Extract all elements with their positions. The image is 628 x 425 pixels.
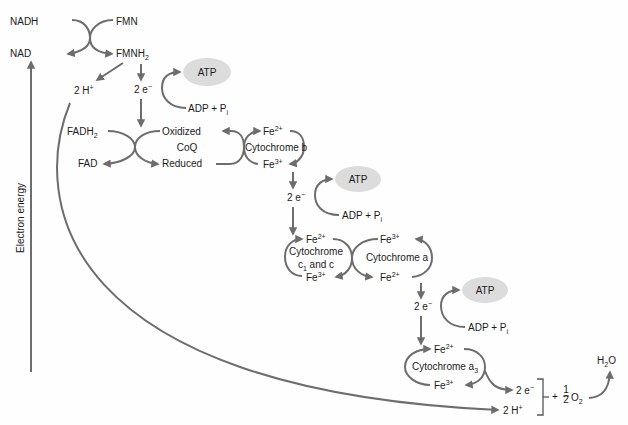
cyt-c-name-line1: Cytochrome — [289, 246, 343, 257]
diagram-canvas: Electron energy NADH NAD FMN FMNH2 2 H+ … — [0, 0, 628, 425]
cyt-a3-to-electrons-arrow — [485, 371, 512, 390]
cyt-a-name-label: Cytochrome a — [366, 252, 429, 263]
oxygen-reduction: 2 e− 2 H+ + 1 2 O2 H2O — [503, 355, 616, 416]
atp-label-1: ATP — [198, 67, 217, 78]
adp-label-1: ADP + Pi — [188, 103, 228, 116]
atp-label-3: ATP — [476, 285, 495, 296]
cyt-a3-fe2-label: Fe2+ — [434, 343, 454, 355]
fmnh2-label: FMNH2 — [116, 48, 149, 61]
cytochrome-a3: Fe2+ Cytochrome a3 Fe3+ — [405, 343, 512, 391]
coq-reduced-label: Reduced — [162, 158, 202, 169]
nad-label: NAD — [10, 48, 31, 59]
atp-synthesis-3: ATP ADP + Pi — [441, 277, 508, 335]
cytochrome-b: Fe2+ Cytochrome b Fe3+ — [216, 125, 308, 170]
oxygen-label: O2 — [571, 392, 583, 405]
fadh2-label: FADH2 — [67, 126, 98, 139]
cyt-a-fe2-label: Fe2+ — [380, 271, 400, 283]
fmn-label: FMN — [116, 16, 138, 27]
coq-oxidized-to-reduced-arrow — [135, 131, 160, 164]
cyt-c-fe2-label: Fe2+ — [306, 233, 326, 245]
coq-name-label: CoQ — [177, 142, 198, 153]
protons-label-final: 2 H+ — [503, 404, 523, 416]
cyt-a3-name-label: Cytochrome a3 — [412, 361, 478, 374]
nadh-to-nad-arrow — [68, 20, 90, 54]
cytochrome-c1-and-c: Fe2+ Cytochrome c1 and c Fe3+ — [285, 233, 352, 283]
cyt-b-name-label: Cytochrome b — [245, 142, 308, 153]
water-label: H2O — [597, 355, 616, 368]
adp-to-atp-arrow-3 — [441, 290, 465, 327]
cyt-b-fe2-label: Fe2+ — [263, 125, 283, 137]
cytochrome-a: Fe3+ Cytochrome a Fe2+ — [352, 233, 432, 283]
fmn-to-fmnh2-arrow — [90, 20, 113, 54]
nadh-fmn-exchange: NADH NAD FMN FMNH2 — [10, 16, 149, 61]
reactant-bracket — [537, 379, 543, 415]
cyt-c-fe3-to-fe2-arrow — [285, 239, 302, 276]
electron-energy-axis: Electron energy — [15, 62, 31, 372]
fraction-denominator: 2 — [563, 394, 569, 405]
cyt-a3-fe3-label: Fe3+ — [434, 379, 454, 391]
electrons-label-2: 2 e− — [287, 191, 305, 203]
adp-label-2: ADP + Pi — [342, 210, 382, 223]
coenzyme-q: FADH2 FAD Oxidized CoQ Reduced — [67, 126, 202, 169]
cyt-c-name-line2: c1 and c — [298, 259, 334, 272]
adp-to-atp-arrow-1 — [162, 72, 186, 108]
coq-oxidized-label: Oxidized — [162, 126, 201, 137]
atp-synthesis-2: ATP ADP + Pi — [315, 166, 382, 223]
adp-label-3: ADP + Pi — [468, 322, 508, 335]
electrons-label-final: 2 e− — [516, 384, 534, 396]
fadh2-to-fad-arrow — [104, 131, 135, 164]
cyt-c-fe2-to-fe3-arrow — [333, 239, 352, 277]
electrons-label-1: 2 e− — [134, 83, 152, 95]
cyt-a-fe3-label: Fe3+ — [380, 233, 400, 245]
protons-label-1: 2 H+ — [74, 84, 94, 96]
fmnh2-to-protons-arrow — [97, 63, 123, 80]
energy-axis-label: Electron energy — [15, 183, 26, 253]
electron-transport-chain-diagram: Electron energy NADH NAD FMN FMNH2 2 H+ … — [0, 0, 628, 425]
cyt-c-fe3-label: Fe3+ — [306, 271, 326, 283]
atp-synthesis-1: ATP ADP + Pi — [162, 58, 231, 116]
fad-label: FAD — [78, 158, 97, 169]
adp-to-atp-arrow-2 — [315, 179, 339, 215]
atp-label-2: ATP — [349, 174, 368, 185]
coq-to-cyt-b-arrow — [216, 131, 244, 164]
plus-sign: + — [552, 391, 558, 402]
cyt-b-fe3-label: Fe3+ — [263, 158, 283, 170]
nadh-label: NADH — [10, 16, 38, 27]
oxygen-to-water-arrow — [589, 372, 610, 398]
electrons-label-3: 2 e− — [414, 300, 432, 312]
